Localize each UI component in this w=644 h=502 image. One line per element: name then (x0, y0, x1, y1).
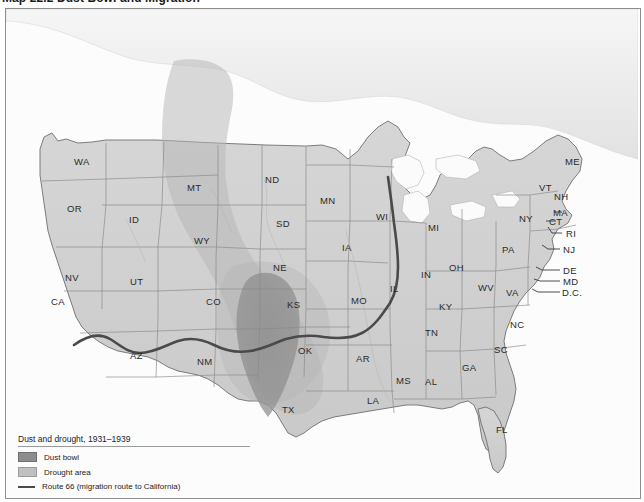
state-label-nd: ND (265, 174, 279, 185)
state-label-nc: NC (510, 319, 524, 330)
state-label-ct: CT (549, 216, 562, 227)
state-label-oh: OH (449, 262, 464, 273)
legend-swatch-dust-bowl (18, 452, 37, 462)
state-label-nh: NH (554, 191, 568, 202)
state-label-nm: NM (197, 356, 212, 367)
state-label-ga: GA (462, 362, 476, 373)
legend-item-route-66: Route 66 (migration route to California) (18, 482, 318, 491)
state-label-tn: TN (425, 327, 438, 338)
legend-label-drought-area: Drought area (44, 468, 91, 477)
state-label-in: IN (421, 269, 431, 280)
state-label-ok: OK (298, 345, 312, 356)
state-label-az: AZ (130, 350, 143, 361)
state-label-mo: MO (351, 295, 367, 306)
state-label-id: ID (129, 214, 139, 225)
state-label-ar: AR (356, 353, 370, 364)
state-label-md: MD (563, 276, 578, 287)
state-label-wv: WV (478, 282, 494, 293)
map-legend: Dust and drought, 1931–1939 Dust bowl Dr… (18, 434, 318, 491)
state-label-vt: VT (539, 182, 552, 193)
state-label-ut: UT (130, 276, 143, 287)
legend-swatch-drought-area (18, 467, 37, 477)
state-label-ny: NY (519, 213, 533, 224)
figure-caption-text: Map 22.2 Dust Bowl and Migration (2, 0, 200, 5)
state-label-wy: WY (194, 235, 210, 246)
state-label-ri: RI (566, 228, 576, 239)
state-label-ne: NE (273, 262, 287, 273)
legend-label-route-66: Route 66 (migration route to California) (42, 482, 180, 491)
state-label-fl: FL (496, 424, 508, 435)
map-frame: WA OR ID MT WY NV UT CA CO AZ NM ND SD N… (5, 8, 641, 499)
state-label-dc: D.C. (562, 287, 582, 298)
state-label-mt: MT (187, 182, 201, 193)
legend-title: Dust and drought, 1931–1939 (18, 434, 250, 447)
state-label-la: LA (367, 395, 379, 406)
state-label-va: VA (506, 287, 519, 298)
state-label-nv: NV (65, 272, 79, 283)
state-label-sc: SC (494, 344, 508, 355)
state-label-co: CO (206, 296, 221, 307)
state-label-ca: CA (51, 296, 65, 307)
state-label-il: IL (390, 283, 399, 294)
map-figure: Map 22.2 Dust Bowl and Migration (0, 0, 644, 502)
state-label-de: DE (563, 265, 577, 276)
state-label-pa: PA (502, 244, 515, 255)
state-label-tx: TX (282, 404, 295, 415)
state-label-mn: MN (320, 195, 335, 206)
state-label-wi: WI (376, 211, 388, 222)
legend-label-dust-bowl: Dust bowl (44, 453, 79, 462)
state-label-ms: MS (396, 375, 411, 386)
state-label-sd: SD (276, 218, 290, 229)
state-label-nj: NJ (563, 244, 575, 255)
state-label-wa: WA (74, 156, 90, 167)
state-label-ky: KY (439, 301, 452, 312)
state-label-or: OR (67, 203, 82, 214)
legend-item-drought-area: Drought area (18, 467, 318, 477)
state-label-me: ME (565, 156, 580, 167)
state-label-mi: MI (428, 222, 439, 233)
map-graphic (6, 9, 638, 496)
legend-item-dust-bowl: Dust bowl (18, 452, 318, 462)
legend-swatch-route-66 (18, 486, 35, 488)
state-label-al: AL (425, 376, 437, 387)
map-canvas: WA OR ID MT WY NV UT CA CO AZ NM ND SD N… (6, 9, 640, 498)
state-label-ks: KS (287, 299, 300, 310)
state-label-ia: IA (342, 242, 352, 253)
figure-caption: Map 22.2 Dust Bowl and Migration (0, 0, 644, 7)
